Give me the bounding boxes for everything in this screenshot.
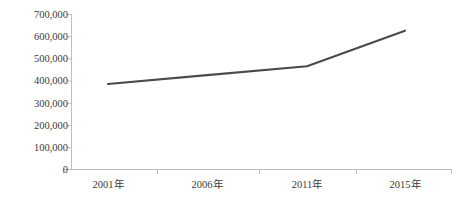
y-tick-label: 100,000 — [4, 143, 68, 154]
data-series-line — [108, 31, 405, 84]
x-axis-ticks — [64, 170, 452, 175]
x-tick-label: 2006年 — [192, 180, 223, 191]
y-tick-label: 300,000 — [4, 99, 68, 110]
y-tick-label: 700,000 — [4, 10, 68, 21]
y-tick-label: 600,000 — [4, 32, 68, 43]
y-tick-label: 200,000 — [4, 121, 68, 132]
y-axis-labels: 700,000 600,000 500,000 400,000 300,000 … — [0, 0, 68, 206]
line-chart: 700,000 600,000 500,000 400,000 300,000 … — [0, 0, 464, 206]
x-tick-label: 2015年 — [390, 180, 421, 191]
chart-plot-area — [0, 0, 464, 206]
y-tick-label: 400,000 — [4, 76, 68, 87]
y-tick-label: 0 — [4, 165, 68, 176]
y-tick-label: 500,000 — [4, 54, 68, 65]
x-tick-label: 2001年 — [93, 180, 124, 191]
x-tick-label: 2011年 — [292, 180, 323, 191]
